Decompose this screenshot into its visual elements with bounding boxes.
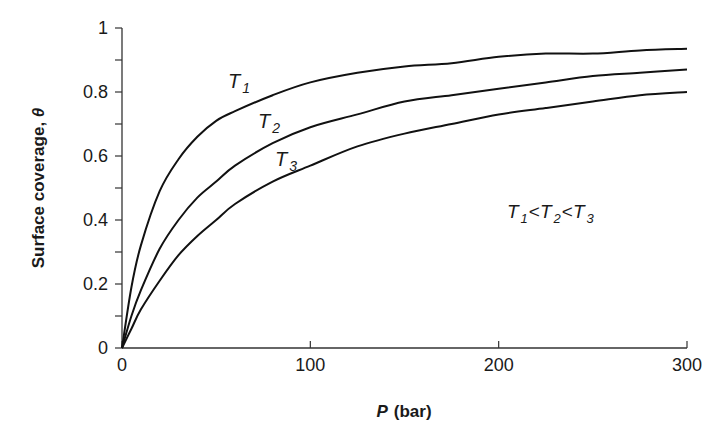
curve-t3 — [122, 92, 687, 348]
x-tick-label: 100 — [295, 355, 325, 375]
curve-t1 — [122, 49, 687, 348]
axes: 010020030000.20.40.60.81 — [83, 18, 702, 375]
langmuir-isotherm-chart: 010020030000.20.40.60.81 T1 T2 T3 T1<T2<… — [0, 0, 727, 442]
curve-t2 — [122, 70, 687, 348]
curve-label-t1: T1 — [228, 70, 250, 96]
x-tick-label: 200 — [484, 355, 514, 375]
x-axis-title: P(bar) — [376, 402, 431, 421]
y-axis-title: Surface coverage, θ — [29, 107, 48, 268]
temperature-order-annotation: T1<T2<T3 — [507, 201, 595, 226]
x-tick-label: 300 — [672, 355, 702, 375]
curve-label-t2: T2 — [258, 110, 280, 136]
y-tick-label: 1 — [98, 18, 108, 38]
curve-label-t3: T3 — [275, 148, 297, 174]
y-tick-label: 0.2 — [83, 274, 108, 294]
curves — [122, 49, 687, 348]
curve-labels: T1 T2 T3 T1<T2<T3 — [228, 70, 595, 226]
y-tick-label: 0.4 — [83, 210, 108, 230]
y-tick-label: 0 — [98, 338, 108, 358]
y-tick-label: 0.6 — [83, 146, 108, 166]
y-tick-label: 0.8 — [83, 82, 108, 102]
x-tick-label: 0 — [117, 355, 127, 375]
